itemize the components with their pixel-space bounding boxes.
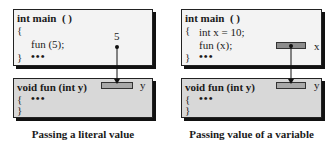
- value-flow-arrows: [0, 0, 336, 149]
- literal-arrow: [114, 45, 120, 84]
- variable-arrow: [288, 44, 294, 84]
